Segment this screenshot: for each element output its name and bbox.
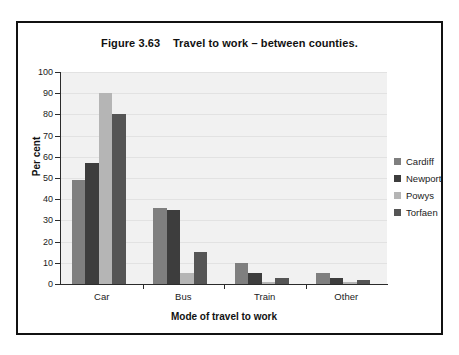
chart-legend: CardiffNewportPowysTorfaen — [394, 153, 459, 221]
legend-swatch-icon — [394, 158, 401, 165]
y-tick-mark — [55, 242, 60, 243]
bar — [99, 93, 113, 284]
x-tick-mark — [224, 284, 225, 289]
y-tick-label: 30 — [19, 215, 53, 225]
x-axis-title: Mode of travel to work — [61, 311, 387, 322]
y-tick-label: 0 — [19, 279, 53, 289]
y-tick-mark — [55, 93, 60, 94]
x-tick-label-car: Car — [94, 291, 109, 302]
bar — [72, 180, 86, 284]
legend-swatch-icon — [394, 175, 401, 182]
bar — [180, 273, 194, 284]
x-tick-label-other: Other — [334, 291, 358, 302]
y-tick-mark — [55, 199, 60, 200]
y-tick-label: 90 — [19, 88, 53, 98]
y-tick-label: 100 — [19, 67, 53, 77]
bar — [248, 273, 262, 284]
y-tick-mark — [55, 220, 60, 221]
y-tick-mark — [55, 284, 60, 285]
bar — [316, 273, 330, 284]
bar — [235, 263, 249, 284]
y-axis-line — [60, 72, 61, 285]
y-axis-title: Per cent — [31, 117, 42, 197]
x-tick-label-train: Train — [254, 291, 275, 302]
figure-title: Figure 3.63 Travel to work – between cou… — [18, 37, 441, 49]
legend-item-torfaen: Torfaen — [394, 204, 459, 221]
x-tick-label-bus: Bus — [175, 291, 191, 302]
x-tick-mark — [143, 284, 144, 289]
y-tick-mark — [55, 263, 60, 264]
bar — [112, 114, 126, 284]
legend-item-powys: Powys — [394, 187, 459, 204]
legend-swatch-icon — [394, 209, 401, 216]
bar — [153, 208, 167, 284]
bar — [167, 210, 181, 284]
gridline — [61, 72, 387, 73]
figure-frame: Figure 3.63 Travel to work – between cou… — [16, 21, 443, 335]
y-tick-mark — [55, 178, 60, 179]
y-tick-mark — [55, 157, 60, 158]
x-tick-mark — [306, 284, 307, 289]
legend-label: Cardiff — [406, 156, 434, 167]
y-tick-mark — [55, 114, 60, 115]
bar — [194, 252, 208, 284]
plot-area — [61, 72, 387, 284]
legend-label: Torfaen — [406, 207, 438, 218]
bar — [85, 163, 99, 284]
legend-item-newport: Newport — [394, 170, 459, 187]
y-tick-mark — [55, 72, 60, 73]
legend-label: Newport — [406, 173, 441, 184]
y-tick-label: 10 — [19, 258, 53, 268]
legend-item-cardiff: Cardiff — [394, 153, 459, 170]
legend-label: Powys — [406, 190, 434, 201]
y-tick-label: 20 — [19, 237, 53, 247]
legend-swatch-icon — [394, 192, 401, 199]
y-tick-mark — [55, 136, 60, 137]
